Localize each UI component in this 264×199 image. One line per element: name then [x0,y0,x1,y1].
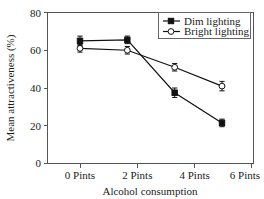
x-axis-title: Alcohol consumption [102,185,198,197]
legend-marker-dim [168,18,173,23]
data-series-layer [77,36,225,127]
data-point [219,120,224,125]
y-tick-label-60: 60 [30,44,42,56]
data-point [172,90,177,95]
y-tick-label-0: 0 [36,157,42,169]
x-tick-label-2: 4 Pints [179,169,209,181]
legend-label-bright: Bright lighting [184,25,250,37]
chart-figure: 0 20 40 60 80 Mean attractiveness (%) 0 … [0,0,264,199]
series-line [80,40,222,123]
x-axis-ticks [80,164,252,168]
data-point [125,37,130,42]
y-tick-label-40: 40 [30,82,42,94]
series-line [80,48,222,86]
data-point [124,47,130,53]
x-tick-label-1: 2 Pints [122,169,152,181]
x-tick-label-3: 6 Pints [230,169,260,181]
y-axis-ticks [44,13,48,164]
legend-marker-bright [168,29,174,35]
legend: Dim lighting Bright lighting [159,13,251,39]
data-point [77,38,82,43]
line-chart: 0 20 40 60 80 Mean attractiveness (%) 0 … [0,0,264,199]
x-tick-label-0: 0 Pints [65,169,95,181]
data-point [219,83,225,89]
y-tick-label-20: 20 [30,120,42,132]
y-axis-title: Mean attractiveness (%) [4,34,17,141]
series-bright-lighting [77,45,225,91]
y-tick-label-80: 80 [30,7,42,19]
data-point [77,45,83,51]
data-point [172,64,178,70]
